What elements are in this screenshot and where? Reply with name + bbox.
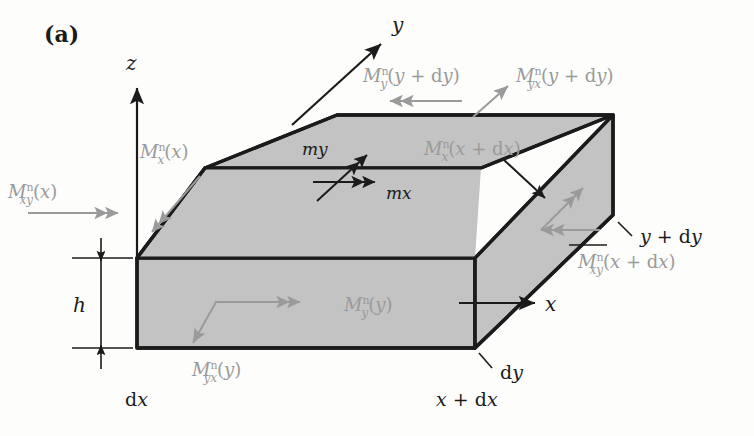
front-face: [137, 258, 475, 348]
y-plus-dy-label: y + dy: [639, 225, 702, 247]
x-plus-dx-label: x + dx: [436, 388, 498, 410]
m-x-label: mx: [386, 183, 412, 203]
m-y-label: my: [302, 139, 328, 159]
M-x-n-of-x-plus-dx-leader: [504, 160, 545, 198]
plate-element-diagram: z y x mx my Mnx(x) Mnxy(x) Mny(y + dy): [0, 0, 754, 436]
M-xy-n-of-x-plus-dx-label: Mnxy(x + dx): [577, 251, 676, 277]
figure-canvas: z y x mx my Mnx(x) Mnxy(x) Mny(y + dy): [0, 0, 754, 436]
dy-label: dy: [500, 361, 523, 383]
h-label: h: [73, 293, 86, 317]
y-axis-label: y: [391, 13, 404, 37]
z-axis-label: z: [125, 51, 137, 75]
dy-leader: [479, 353, 492, 368]
M-yx-n-of-y-plus-dy-label: Mnyx(y + dy): [515, 65, 614, 91]
M-yx-n-of-y-label: Mnyx(y): [191, 359, 241, 385]
top-face: [205, 115, 613, 168]
dx-label: dx: [125, 388, 148, 410]
M-yx-n-of-y-plus-dy-arrow: [473, 86, 508, 117]
left-top-wedge: [137, 168, 481, 258]
M-xy-n-of-x-label: Mnxy(x): [7, 181, 57, 207]
M-y-n-of-y-plus-dy-label: Mny(y + dy): [362, 65, 460, 91]
y-plus-dy-leader-short: [618, 222, 632, 236]
x-axis-label: x: [545, 292, 556, 316]
panel-label: (a): [44, 21, 79, 47]
M-x-n-of-x-label: Mnx(x): [139, 141, 189, 167]
